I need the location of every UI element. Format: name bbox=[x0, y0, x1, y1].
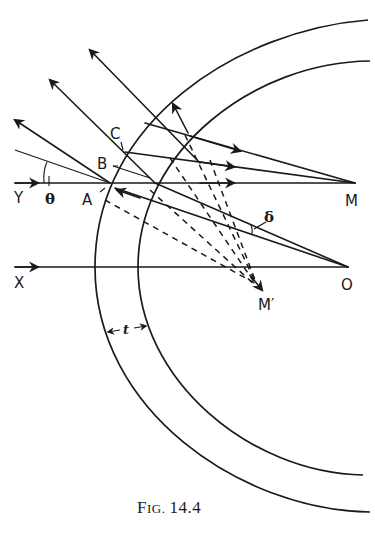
thickness-arrow-left bbox=[108, 330, 120, 332]
incident-ray bbox=[15, 150, 110, 183]
figure-14-4-diagram: Y X θ A B C M O M′ δ t FIG.14.4 bbox=[0, 0, 375, 538]
label-X: X bbox=[14, 274, 24, 292]
figure-caption: FIG.14.4 bbox=[137, 498, 201, 517]
dashed-line-1 bbox=[105, 200, 258, 285]
label-C: C bbox=[110, 125, 120, 143]
label-M-prime: M′ bbox=[258, 296, 275, 314]
A-leader bbox=[100, 188, 105, 192]
label-O: O bbox=[341, 276, 353, 294]
reflected-ray-top bbox=[173, 104, 188, 133]
label-theta: θ bbox=[45, 190, 55, 208]
label-A: A bbox=[82, 191, 93, 209]
ray-A-to-O-lower bbox=[115, 188, 348, 267]
reflected-ray-A bbox=[15, 120, 110, 183]
label-Y: Y bbox=[13, 189, 24, 207]
ray-B-to-M-arrow bbox=[200, 162, 234, 167]
thickness-arrow-right bbox=[134, 326, 146, 328]
dashed-line-4 bbox=[185, 135, 256, 283]
reflected-ray-C bbox=[90, 50, 200, 163]
ray-B-to-M bbox=[125, 152, 355, 183]
theta-angle-arc bbox=[44, 162, 47, 183]
label-t: t bbox=[123, 322, 129, 337]
dashed-line-5 bbox=[210, 160, 255, 280]
outer-surface-arc bbox=[95, 20, 370, 512]
ray-C-to-M-arrow bbox=[190, 136, 240, 151]
ray-A-back-arrow bbox=[117, 190, 140, 198]
label-M: M bbox=[345, 192, 358, 210]
label-B: B bbox=[97, 155, 107, 173]
label-delta: δ bbox=[264, 208, 274, 226]
C-leader bbox=[121, 142, 123, 150]
inner-surface-arc bbox=[138, 61, 370, 475]
ray-C-to-M bbox=[145, 123, 355, 183]
